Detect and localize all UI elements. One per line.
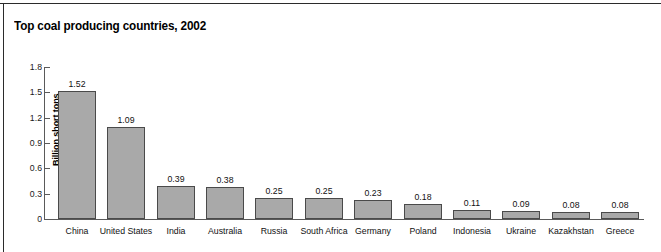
plot-area: Billion short tons 00.30.60.91.21.51.8 1…	[44, 62, 646, 224]
bar-value-label: 1.09	[118, 114, 135, 125]
top-border-rule	[0, 3, 661, 4]
bar-value-label: 0.08	[612, 199, 629, 210]
y-axis-tick-mark	[45, 194, 50, 195]
bar-group: 0.18Poland	[404, 62, 442, 224]
y-axis-tick-label: 1.5	[11, 87, 42, 97]
y-axis-tick-label: 1.2	[11, 113, 42, 123]
bar-value-label: 0.11	[464, 197, 480, 208]
bar-group: 1.52China	[58, 62, 96, 224]
bar-group: 0.38Australia	[206, 62, 244, 224]
bar[interactable]	[255, 198, 293, 219]
chart-title: Top coal producing countries, 2002	[14, 19, 206, 33]
y-axis-tick-mark	[45, 219, 50, 220]
bar-group: 1.09United States	[107, 62, 145, 224]
bar-value-label: 1.52	[68, 78, 85, 89]
bar-value-label: 0.38	[216, 174, 233, 185]
bar-value-label: 0.23	[365, 187, 382, 198]
bar[interactable]	[157, 186, 195, 219]
bar[interactable]	[354, 200, 392, 219]
y-axis-tick-mark	[45, 168, 50, 169]
y-axis-tick-label: 0.9	[11, 138, 42, 148]
y-axis-tick-label: 0.3	[11, 189, 42, 199]
chart-figure: Top coal producing countries, 2002 Billi…	[0, 0, 661, 252]
y-axis-tick: 1.5	[2, 87, 50, 97]
bar-group: 0.25Russia	[255, 62, 293, 224]
bar-value-label: 0.25	[266, 185, 283, 196]
bar-value-label: 0.08	[562, 199, 579, 210]
bar[interactable]	[58, 91, 96, 219]
bar[interactable]	[107, 127, 145, 219]
bar-group: 0.25South Africa	[305, 62, 343, 224]
y-axis-tick-label: 1.8	[11, 62, 42, 72]
y-axis-tick-mark	[45, 118, 50, 119]
y-axis-tick-label: 0	[11, 214, 42, 224]
bar[interactable]	[453, 210, 491, 219]
bar[interactable]	[305, 198, 343, 219]
bar-group: 0.08Kazakhstan	[552, 62, 590, 224]
y-axis-tick-label: 0.6	[11, 163, 42, 173]
y-axis-tick-mark	[45, 92, 50, 93]
y-axis-tick-mark	[45, 67, 50, 68]
bar-value-label: 0.18	[414, 191, 431, 202]
bar-value-label: 0.25	[315, 185, 332, 196]
y-axis-tick: 0.9	[2, 138, 50, 148]
y-axis-tick: 1.8	[2, 62, 50, 72]
bar-value-label: 0.39	[167, 173, 184, 184]
bar[interactable]	[404, 204, 442, 219]
bar-group: 0.09Ukraine	[502, 62, 540, 224]
bar-group: 0.39India	[157, 62, 195, 224]
y-axis-tick: 0	[2, 214, 50, 224]
y-axis-tick: 1.2	[2, 113, 50, 123]
bar-group: 0.08Greece	[601, 62, 639, 224]
x-axis-category-label: Greece	[586, 225, 654, 237]
bar[interactable]	[502, 211, 540, 219]
y-axis-tick-mark	[45, 143, 50, 144]
bar[interactable]	[601, 212, 639, 219]
bar-value-label: 0.09	[513, 198, 530, 209]
bar[interactable]	[206, 187, 244, 219]
y-axis-tick: 0.3	[2, 189, 50, 199]
bar-group: 0.23Germany	[354, 62, 392, 224]
y-axis-tick: 0.6	[2, 163, 50, 173]
bar-group: 0.11Indonesia	[453, 62, 491, 224]
bar[interactable]	[552, 212, 590, 219]
